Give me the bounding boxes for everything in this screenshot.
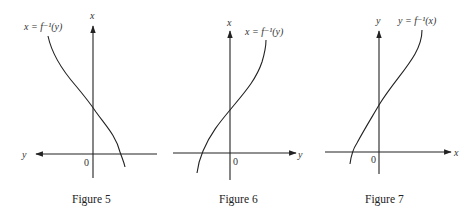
figures-canvas: x y 0 x = f⁻¹(y) Figure 5 x y 0 x = f⁻¹(… (0, 0, 471, 214)
figure-7-curve (350, 30, 422, 164)
figure-5-vertical-axis-label: x (89, 10, 95, 21)
figure-5-curve-label: x = f⁻¹(y) (23, 21, 63, 33)
figure-5: x y 0 x = f⁻¹(y) Figure 5 (21, 10, 157, 206)
figure-6-caption: Figure 6 (219, 193, 258, 206)
figure-5-caption: Figure 5 (72, 193, 111, 206)
figure-5-curve (48, 36, 125, 167)
figure-7-horizontal-axis-label: x (453, 147, 459, 158)
figure-7-origin-label: 0 (371, 154, 376, 165)
figure-5-horizontal-axis-label: y (21, 149, 27, 160)
figure-7-curve-label: y = f⁻¹(x) (397, 15, 437, 27)
figure-6-origin-label: 0 (233, 156, 238, 167)
figure-6-horizontal-axis-label: y (297, 149, 303, 160)
figure-6-curve-label: x = f⁻¹(y) (244, 26, 284, 38)
figure-7-vertical-axis-label: y (375, 15, 381, 26)
figure-6: x y 0 x = f⁻¹(y) Figure 6 (173, 17, 303, 206)
figure-5-origin-label: 0 (84, 157, 89, 168)
figure-7: y x 0 y = f⁻¹(x) Figure 7 (325, 15, 459, 206)
figure-6-vertical-axis-label: x (226, 17, 232, 28)
figure-7-caption: Figure 7 (365, 193, 404, 206)
